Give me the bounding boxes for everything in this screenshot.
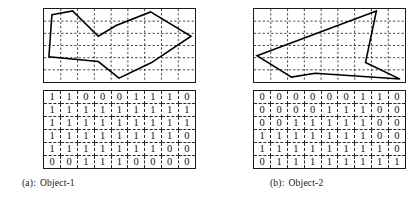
table-row: 0 0 1 1 1 1 1 0 0 (254, 116, 405, 129)
matrix-cell: 1 (338, 156, 355, 168)
matrix-cell: 1 (178, 116, 195, 129)
matrix-cell: 0 (44, 156, 61, 168)
table-row: 1 1 0 0 0 1 1 1 0 (44, 91, 195, 103)
matrix-cell: 1 (78, 143, 95, 156)
object-polygon-path-a (49, 11, 191, 78)
matrix-cell: 1 (288, 156, 305, 168)
matrix-cell: 1 (145, 103, 162, 116)
matrix-cell: 1 (254, 143, 271, 156)
table-row: 1 1 1 1 1 1 1 1 1 (44, 116, 195, 129)
figure-container: 1 1 0 0 0 1 1 1 0 1 1 1 1 (0, 0, 417, 204)
matrix-cell: 1 (371, 156, 388, 168)
matrix-cell: 1 (94, 156, 111, 168)
matrix-cell: 1 (44, 129, 61, 142)
binary-matrix-box-a: 1 1 0 0 0 1 1 1 0 1 1 1 1 (43, 90, 196, 169)
matrix-cell: 0 (178, 91, 195, 103)
matrix-cell: 1 (145, 91, 162, 103)
figure-panel-a: 1 1 0 0 0 1 1 1 0 1 1 1 1 (0, 0, 208, 204)
matrix-cell: 1 (161, 129, 178, 142)
table-row: 0 1 1 1 1 1 1 1 1 (254, 156, 405, 168)
matrix-cell: 1 (78, 116, 95, 129)
matrix-cell: 0 (161, 143, 178, 156)
matrix-cell: 1 (61, 103, 78, 116)
matrix-cell: 1 (111, 129, 128, 142)
matrix-cell: 0 (388, 116, 405, 129)
matrix-cell: 1 (371, 91, 388, 103)
matrix-cell: 1 (145, 143, 162, 156)
matrix-cell: 1 (78, 103, 95, 116)
matrix-cell: 0 (78, 91, 95, 103)
matrix-cell: 1 (145, 116, 162, 129)
matrix-cell: 0 (254, 156, 271, 168)
table-row: 1 1 1 1 1 1 1 1 1 (44, 103, 195, 116)
matrix-cell: 0 (388, 91, 405, 103)
matrix-cell: 0 (254, 91, 271, 103)
matrix-cell: 0 (388, 143, 405, 156)
matrix-cell: 1 (61, 129, 78, 142)
matrix-cell: 1 (128, 116, 145, 129)
matrix-cell: 1 (44, 103, 61, 116)
matrix-cell: 1 (94, 129, 111, 142)
matrix-cell: 1 (161, 116, 178, 129)
matrix-cell: 0 (388, 103, 405, 116)
object-polygon-path-b (257, 11, 400, 79)
matrix-cell: 1 (61, 143, 78, 156)
matrix-cell: 1 (355, 156, 372, 168)
matrix-cell: 1 (304, 143, 321, 156)
table-row: 1 1 1 1 1 1 1 0 0 (254, 129, 405, 142)
table-row: 0 0 0 0 1 1 1 0 0 (254, 103, 405, 116)
matrix-cell: 0 (178, 129, 195, 142)
matrix-cell: 0 (304, 103, 321, 116)
matrix-cell: 1 (78, 156, 95, 168)
matrix-cell: 0 (371, 103, 388, 116)
matrix-cell: 1 (355, 91, 372, 103)
panel-caption-a: (a):Object-1 (22, 178, 75, 188)
matrix-cell: 1 (94, 103, 111, 116)
matrix-cell: 1 (145, 129, 162, 142)
matrix-cell: 0 (288, 103, 305, 116)
matrix-cell: 0 (288, 91, 305, 103)
matrix-cell: 1 (111, 156, 128, 168)
matrix-cell: 1 (321, 116, 338, 129)
matrix-cell: 1 (128, 143, 145, 156)
matrix-cell: 0 (61, 156, 78, 168)
matrix-cell: 1 (254, 129, 271, 142)
matrix-cell: 0 (321, 91, 338, 103)
object-shape-box-a (43, 8, 196, 83)
table-row: 1 1 1 1 1 1 1 1 0 (254, 143, 405, 156)
object-polygon-b (254, 9, 405, 82)
matrix-cell: 1 (271, 129, 288, 142)
table-row: 0 0 1 1 1 0 0 0 0 (44, 156, 195, 168)
matrix-cell: 1 (288, 129, 305, 142)
matrix-cell: 1 (355, 129, 372, 142)
matrix-cell: 1 (161, 91, 178, 103)
matrix-cell: 1 (321, 143, 338, 156)
binary-matrix-box-b: 0 0 0 0 0 0 1 1 0 0 0 0 0 (253, 90, 406, 169)
matrix-cell: 0 (145, 156, 162, 168)
matrix-cell: 1 (304, 116, 321, 129)
object-shape-box-b (253, 8, 406, 83)
panel-caption-tag-a: (a): (22, 178, 36, 188)
matrix-cell: 1 (161, 103, 178, 116)
object-polygon-a (44, 9, 195, 82)
matrix-cell: 1 (288, 143, 305, 156)
matrix-cell: 1 (271, 143, 288, 156)
matrix-cell: 1 (44, 91, 61, 103)
matrix-cell: 1 (61, 91, 78, 103)
matrix-cell: 1 (111, 116, 128, 129)
matrix-cell: 1 (78, 129, 95, 142)
panel-caption-text-a: Object-1 (40, 178, 75, 188)
matrix-cell: 0 (304, 91, 321, 103)
matrix-cell: 1 (355, 143, 372, 156)
matrix-cell: 0 (178, 143, 195, 156)
matrix-cell: 1 (321, 129, 338, 142)
matrix-cell: 1 (111, 143, 128, 156)
table-row: 0 0 0 0 0 0 1 1 0 (254, 91, 405, 103)
matrix-cell: 1 (321, 103, 338, 116)
matrix-cell: 1 (288, 116, 305, 129)
matrix-cell: 1 (44, 116, 61, 129)
matrix-cell: 0 (371, 129, 388, 142)
matrix-cell: 0 (271, 91, 288, 103)
matrix-cell: 1 (271, 156, 288, 168)
matrix-cell: 0 (161, 156, 178, 168)
